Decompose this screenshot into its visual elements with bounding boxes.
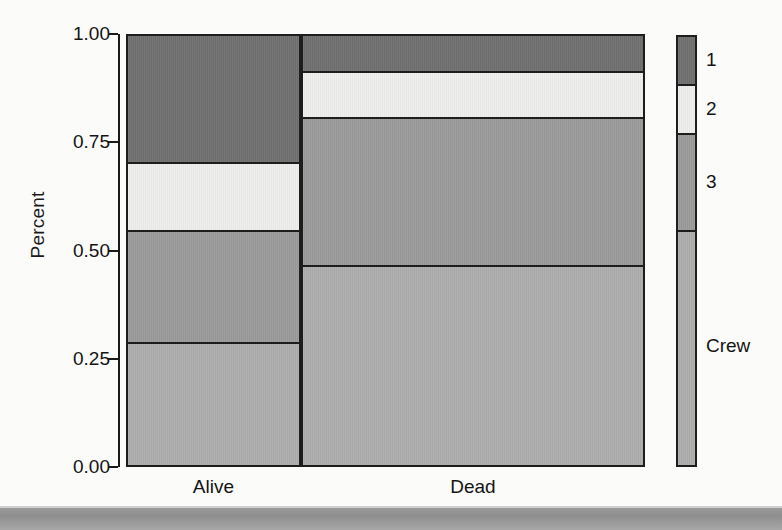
bar-segment-alive-1[interactable] (128, 36, 299, 164)
y-tick-label: 0.00 (46, 457, 110, 476)
bar-column-dead[interactable] (301, 34, 645, 467)
y-tick-mark (108, 466, 118, 468)
legend-label-crew: Crew (706, 336, 750, 355)
legend-swatch-2[interactable] (678, 86, 695, 135)
y-tick-label: 0.75 (46, 132, 110, 151)
bar-segment-dead-3[interactable] (303, 119, 643, 267)
bar-segment-dead-2[interactable] (303, 73, 643, 119)
bar-segment-alive-3[interactable] (128, 232, 299, 344)
page-bottom-edge (0, 508, 782, 530)
x-tick-label-dead: Dead (301, 476, 645, 498)
plot-area (126, 34, 645, 467)
bar-segment-alive-crew[interactable] (128, 344, 299, 465)
legend-swatch-crew[interactable] (678, 232, 695, 465)
legend-label-1: 1 (706, 50, 717, 69)
legend-label-3: 3 (706, 172, 717, 191)
legend-swatch-1[interactable] (678, 37, 695, 86)
y-axis-title: Percent (27, 165, 49, 285)
y-tick-label: 1.00 (46, 24, 110, 43)
y-tick-label: 0.25 (46, 349, 110, 368)
y-tick-mark (108, 141, 118, 143)
y-axis-line (118, 34, 120, 467)
legend-colorbar (676, 35, 697, 467)
y-tick-mark (108, 358, 118, 360)
bar-segment-dead-crew[interactable] (303, 267, 643, 465)
y-tick-label: 0.50 (46, 241, 110, 260)
legend-label-2: 2 (706, 99, 717, 118)
legend-swatch-3[interactable] (678, 135, 695, 231)
x-tick-label-alive: Alive (126, 476, 301, 498)
chart-figure: Percent 1.000.750.500.250.00 AliveDead 1… (0, 0, 782, 530)
bar-column-alive[interactable] (126, 34, 301, 467)
bar-segment-dead-1[interactable] (303, 36, 643, 73)
bar-segment-alive-2[interactable] (128, 164, 299, 232)
y-tick-mark (108, 250, 118, 252)
y-tick-mark (108, 33, 118, 35)
